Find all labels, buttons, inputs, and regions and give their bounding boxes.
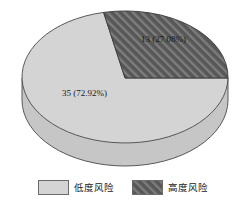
legend-item-high-risk[interactable]: 高度风险: [132, 180, 208, 195]
pie-chart-figure: 13 (27.08%) 35 (72.92%) 低度风险 高度风险: [0, 0, 246, 204]
chart-legend: 低度风险 高度风险: [0, 172, 246, 202]
slice-label-low-risk: 35 (72.92%): [62, 88, 107, 98]
legend-swatch-high-risk: [132, 180, 163, 195]
legend-swatch-low-risk: [38, 180, 69, 195]
pie-slice-high-risk: [104, 11, 228, 78]
legend-label-high-risk: 高度风险: [168, 180, 208, 194]
slice-label-high-risk: 13 (27.08%): [141, 34, 186, 44]
legend-label-low-risk: 低度风险: [74, 180, 114, 194]
legend-item-low-risk[interactable]: 低度风险: [38, 180, 114, 195]
